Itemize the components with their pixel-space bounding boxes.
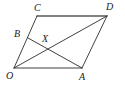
diagonal-O-D (14, 16, 107, 68)
vertex-label-o: O (6, 71, 13, 81)
segment-A-D (82, 16, 107, 68)
vertex-label-a: A (79, 72, 85, 82)
vertex-label-d: D (106, 2, 113, 12)
geometry-figure: C D B X O A (0, 0, 125, 90)
vertex-label-c: C (34, 3, 41, 13)
vertex-label-b: B (14, 29, 20, 39)
segment-B-A (28, 38, 82, 68)
vertex-label-x: X (42, 34, 48, 44)
segment-O-C (14, 16, 37, 68)
figure-canvas (0, 0, 125, 90)
